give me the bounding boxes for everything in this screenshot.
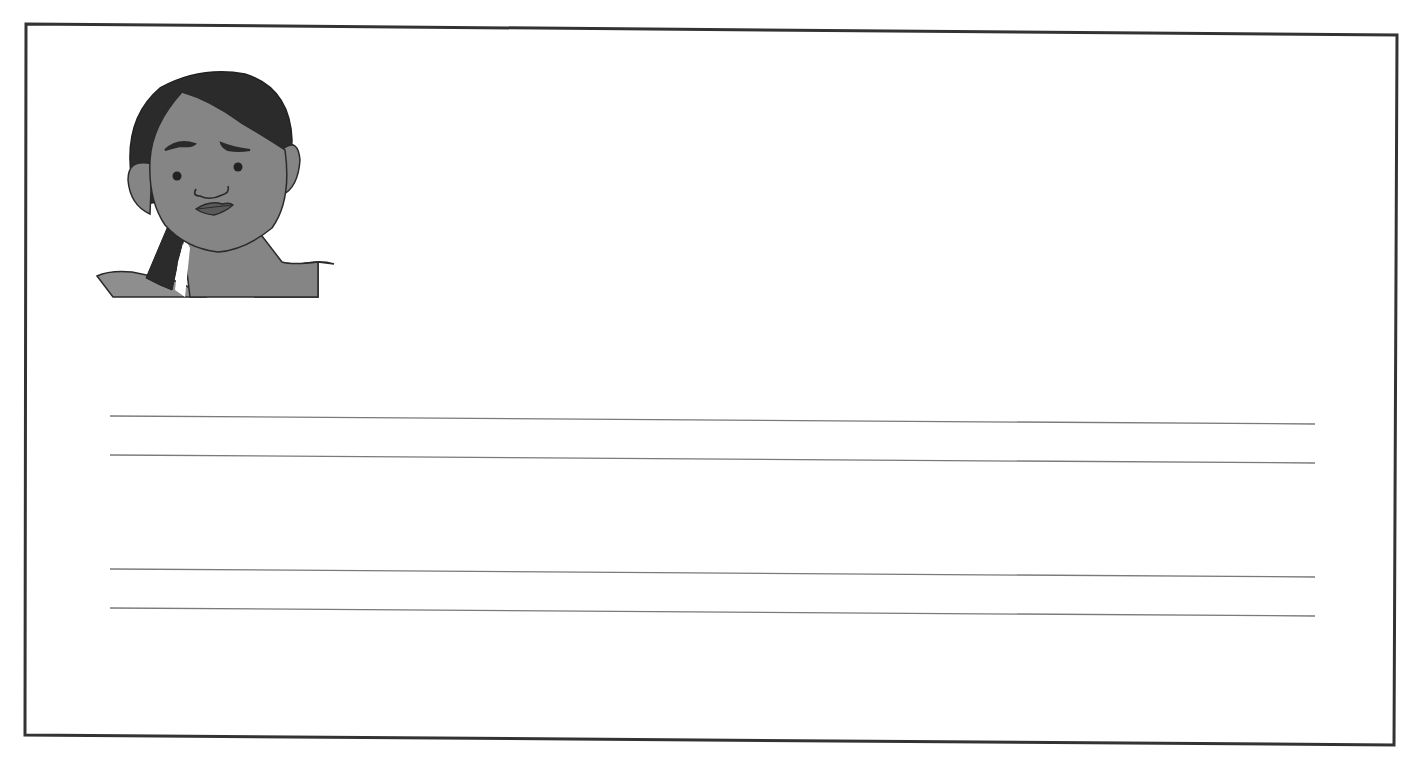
- worksheet-canvas: [0, 0, 1414, 773]
- ear-left: [128, 163, 152, 214]
- character-illustration: [97, 72, 334, 297]
- eye-left: [173, 172, 182, 181]
- eye-right: [234, 163, 243, 172]
- writing-line-4[interactable]: [110, 608, 1315, 616]
- writing-lines: [110, 416, 1315, 616]
- writing-line-3[interactable]: [110, 569, 1315, 577]
- writing-line-1[interactable]: [110, 416, 1315, 424]
- worksheet-page: [0, 0, 1414, 773]
- writing-line-2[interactable]: [110, 455, 1315, 463]
